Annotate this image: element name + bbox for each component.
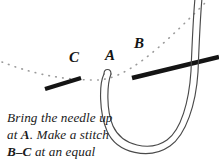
caption-line-3: B–C at an equal bbox=[7, 143, 132, 160]
instruction-caption: Bring the needle up at A. Make a stitch … bbox=[7, 109, 132, 160]
caption-line-1: Bring the needle up bbox=[7, 109, 132, 126]
caption-line-3-suffix: at an equal bbox=[32, 144, 96, 159]
caption-line-2: at A. Make a stitch bbox=[7, 126, 132, 143]
point-label-a: A bbox=[105, 48, 115, 63]
point-label-b: B bbox=[134, 36, 144, 51]
stitch-segment-left bbox=[45, 78, 81, 89]
thread-loop-top-cap bbox=[104, 70, 111, 75]
caption-points-bc: B–C bbox=[7, 144, 32, 159]
caption-line-2-prefix: at bbox=[7, 127, 21, 142]
caption-line-1-text: Bring the needle up bbox=[7, 110, 113, 125]
needle-stitch-segment-right bbox=[132, 57, 219, 78]
caption-point-a: A bbox=[21, 127, 30, 142]
stitch-diagram-page: C A B Bring the needle up at A. Make a s… bbox=[0, 0, 219, 166]
point-label-c: C bbox=[69, 50, 79, 65]
caption-line-2-suffix: . Make a stitch bbox=[30, 127, 109, 142]
